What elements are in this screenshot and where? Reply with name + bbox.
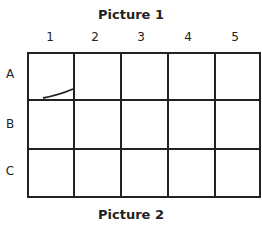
grid-line — [259, 52, 261, 197]
picture-1-title: Picture 1 — [0, 7, 262, 22]
picture-2-title: Picture 2 — [0, 207, 262, 222]
grid-line — [214, 52, 216, 197]
grid-line — [27, 148, 261, 150]
curved-stroke-mark — [27, 52, 87, 112]
grid-line — [120, 52, 122, 197]
column-label-4: 4 — [178, 30, 198, 44]
column-label-5: 5 — [225, 30, 245, 44]
row-label-a: A — [3, 67, 17, 81]
column-label-3: 3 — [131, 30, 151, 44]
picture-1-grid — [27, 52, 261, 197]
grid-line — [27, 196, 261, 198]
row-label-c: C — [3, 164, 17, 178]
grid-line — [167, 52, 169, 197]
column-label-2: 2 — [85, 30, 105, 44]
column-label-1: 1 — [40, 30, 60, 44]
row-label-b: B — [3, 117, 17, 131]
